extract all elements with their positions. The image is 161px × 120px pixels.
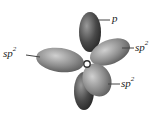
label-sp2-upper-right: sp2 xyxy=(135,42,148,53)
label-p-text: p xyxy=(112,12,118,24)
sp2-left-lobe xyxy=(35,45,86,75)
label-sp2-left-sup: 2 xyxy=(13,45,17,53)
label-p: p xyxy=(112,13,118,24)
label-sp2-left: sp2 xyxy=(3,48,16,59)
nucleus-marker xyxy=(84,61,90,67)
orbital-diagram xyxy=(0,0,161,120)
label-sp2-upper-right-sup: 2 xyxy=(145,39,149,47)
label-sp2-lower-right-sup: 2 xyxy=(131,75,135,83)
label-sp2-upper-right-base: sp xyxy=(135,41,145,53)
label-sp2-lower-right: sp2 xyxy=(121,78,134,89)
label-sp2-lower-right-base: sp xyxy=(121,77,131,89)
label-sp2-left-base: sp xyxy=(3,47,13,59)
